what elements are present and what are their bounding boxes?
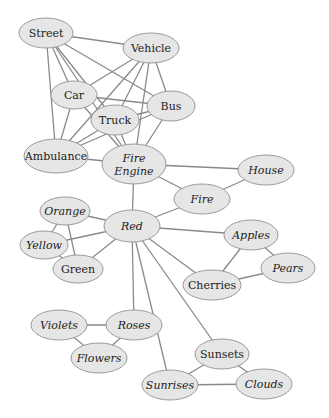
node-label: Flowers: [76, 352, 122, 365]
node-pears: Pears: [261, 253, 315, 283]
node-orange: Orange: [40, 197, 90, 225]
node-truck: Truck: [91, 105, 139, 135]
node-label: Vehicle: [130, 42, 171, 55]
node-violets: Violets: [31, 310, 87, 340]
node-label: Green: [61, 263, 95, 276]
node-label: Clouds: [245, 378, 284, 391]
node-label: Red: [120, 220, 143, 233]
node-label: Fire: [122, 152, 146, 165]
node-apples: Apples: [224, 220, 278, 250]
node-label: Ambulance: [24, 150, 87, 163]
node-label: Sunsets: [200, 348, 244, 361]
node-yellow: Yellow: [20, 231, 68, 259]
node-cherries: Cherries: [183, 270, 241, 300]
node-label: Yellow: [26, 239, 62, 252]
node-clouds: Clouds: [236, 369, 292, 399]
node-sunrises: Sunrises: [142, 370, 198, 400]
nodes-layer: StreetVehicleCarBusTruckAmbulanceFireEng…: [19, 18, 315, 400]
node-label: Orange: [44, 205, 86, 218]
semantic-network-diagram: StreetVehicleCarBusTruckAmbulanceFireEng…: [0, 0, 329, 418]
node-ambulance: Ambulance: [24, 139, 88, 173]
node-car: Car: [51, 81, 97, 109]
node-fire: Fire: [174, 184, 230, 214]
node-bus: Bus: [147, 91, 195, 121]
node-label: Pears: [272, 262, 304, 275]
node-label: Engine: [113, 165, 154, 178]
node-fire-engine: FireEngine: [102, 144, 166, 184]
node-label: Bus: [161, 100, 182, 113]
node-label: Sunrises: [146, 379, 195, 392]
node-label: House: [247, 164, 284, 177]
node-label: Roses: [117, 319, 151, 332]
node-label: Apples: [231, 229, 270, 242]
node-house: House: [238, 155, 294, 185]
node-green: Green: [53, 255, 103, 283]
node-flowers: Flowers: [71, 343, 127, 373]
node-red: Red: [104, 210, 160, 242]
node-street: Street: [19, 18, 73, 48]
node-vehicle: Vehicle: [123, 33, 179, 63]
node-label: Violets: [40, 319, 78, 332]
node-label: Car: [64, 89, 85, 102]
node-label: Street: [29, 27, 64, 40]
node-label: Cherries: [188, 279, 237, 292]
node-sunsets: Sunsets: [195, 339, 249, 369]
node-roses: Roses: [106, 310, 162, 340]
node-label: Fire: [190, 193, 214, 206]
node-label: Truck: [99, 114, 132, 127]
